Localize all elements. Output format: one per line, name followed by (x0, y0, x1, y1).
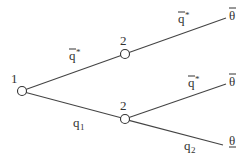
edge-label-qbar-star-stage2-mid: q * (188, 74, 200, 90)
terminal-theta-underbar-bottom: θ (229, 133, 236, 148)
svg-text:*: * (76, 47, 81, 57)
edge-label-qbar-star-stage1: q * (69, 47, 81, 63)
edge-2-lower-to-theta-bottom (129, 120, 223, 145)
svg-text:θ: θ (229, 133, 235, 148)
svg-text:θ: θ (229, 74, 235, 89)
decision-node-player-1 (18, 87, 27, 96)
player-label-1: 1 (11, 71, 18, 86)
svg-text:*: * (195, 74, 200, 84)
terminal-theta-bar-mid: θ (229, 74, 236, 89)
edge-label-q2: q 2 (184, 138, 196, 155)
svg-text:q: q (184, 138, 191, 153)
svg-text:q: q (73, 115, 80, 130)
edge-label-qbar-star-stage2-upper: q * (178, 10, 190, 26)
svg-text:*: * (185, 10, 190, 20)
decision-node-player-2-upper (121, 50, 130, 59)
svg-text:1: 1 (80, 122, 85, 132)
svg-text:2: 2 (191, 145, 196, 155)
svg-text:q: q (178, 11, 185, 26)
player-label-2-lower: 2 (120, 98, 127, 113)
edge-2-lower-to-theta-mid (129, 84, 226, 118)
svg-text:q: q (69, 48, 76, 63)
game-tree-diagram: 1 2 2 q * q 1 q * q * q 2 θ θ θ (0, 0, 251, 159)
terminal-theta-bar-top: θ (229, 8, 236, 23)
decision-node-player-2-lower (121, 115, 130, 124)
svg-text:q: q (188, 75, 195, 90)
player-label-2-upper: 2 (120, 33, 127, 48)
svg-text:θ: θ (229, 8, 235, 23)
edge-label-q1: q 1 (73, 115, 85, 132)
edge-1-to-2-lower (25, 92, 121, 118)
